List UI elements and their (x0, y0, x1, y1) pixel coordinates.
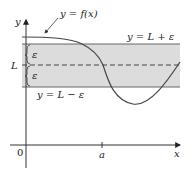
epsilon-band (22, 44, 180, 87)
lower-line-label: y = L − ε (36, 89, 84, 100)
epsilon-band-diagram: y x 0 a L ε ε y = f(x) y = L + ε y = L −… (0, 0, 193, 177)
epsilon-lower-label: ε (32, 70, 37, 81)
curve-label: y = f(x) (59, 8, 98, 19)
epsilon-upper-label: ε (32, 49, 37, 60)
y-axis-label: y (14, 16, 21, 27)
L-label: L (10, 60, 18, 71)
upper-line-label: y = L + ε (126, 31, 174, 42)
a-label: a (99, 149, 105, 160)
x-axis-label: x (174, 148, 180, 159)
curve-label-pointer (45, 18, 58, 33)
origin-label: 0 (17, 147, 23, 158)
